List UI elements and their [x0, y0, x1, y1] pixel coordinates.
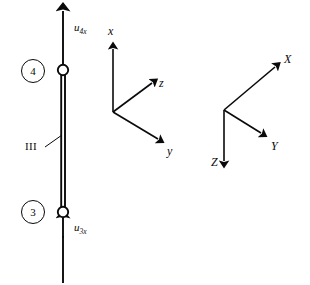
- displacement-label-u4x: u4x: [74, 22, 87, 36]
- displacement-subscript-u3x: 3x: [80, 227, 87, 236]
- local-axis-y-label: y: [167, 145, 172, 157]
- global-axis-X-label: X: [284, 53, 291, 65]
- displacement-label-u3x: u3x: [74, 222, 87, 236]
- global-axis-X-line: [224, 67, 275, 110]
- node-badge-4: 4: [21, 59, 45, 83]
- local-axis-x-label: x: [108, 25, 113, 37]
- node-badge-3-label: 3: [30, 206, 36, 218]
- node-badge-4-label: 4: [30, 65, 36, 77]
- figure-vector-graphics: [0, 0, 310, 285]
- node-badge-3: 3: [21, 200, 45, 224]
- element-label-iii: III: [25, 141, 37, 152]
- global-axis-Y-line: [224, 110, 261, 133]
- local-axes-lines: [113, 49, 158, 139]
- element-label-leader: [45, 135, 62, 147]
- global-axis-Y-label: Y: [271, 140, 278, 152]
- global-axes-lines: [224, 67, 275, 161]
- local-axis-z-label: z: [159, 77, 164, 89]
- global-axis-Z-label: Z: [211, 156, 218, 168]
- node-hinge-3: [58, 207, 68, 217]
- node-hinge-4: [58, 65, 68, 75]
- local-axis-z-line: [113, 83, 152, 112]
- local-axis-y-line: [113, 112, 158, 139]
- bar-element-iii: [61, 68, 65, 214]
- figure-canvas: 4 3 III u4x u3x x z y X Y Z: [0, 0, 310, 285]
- displacement-subscript-u4x: 4x: [80, 27, 87, 36]
